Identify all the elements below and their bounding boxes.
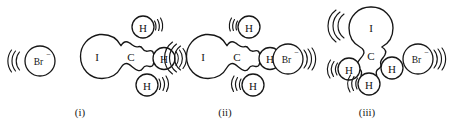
hydrogen-bottom-label-iii: H [365,79,373,91]
motion-arcs-hydrogen-bottom-i [159,76,168,92]
bromide-charge-ii: − [294,48,299,57]
motion-arcs-hydrogen-top-i [155,18,163,31]
motion-arcs-hydrogen-right-i [176,49,186,69]
iodomethane-blob-i: I C [81,35,160,79]
hydrogen-right-label-iii: H [388,63,396,75]
caption-i: (i) [75,106,86,119]
panel-ii: I C H H H [165,16,316,119]
carbon-label-ii: C [233,51,240,63]
hydrogen-bottom-ii: H [232,74,264,96]
bromide-charge-i: − [46,50,51,59]
hydrogen-left-iii: H [327,58,360,80]
hydrogen-top-label-i: H [139,22,147,34]
hydrogen-top-ii: H [229,16,260,38]
iodomethane-blob-ii: I C [187,35,266,79]
bromide-charge-iii: − [424,48,429,57]
iodine-label-i: I [95,51,99,63]
motion-arcs-bromide-ii [304,48,316,70]
motion-arcs-bromide-i [8,50,20,72]
carbon-label-i: C [127,51,134,63]
bromide-label-i: Br [34,57,44,67]
iodine-label-ii: I [201,51,205,63]
bromide-label-ii: Br [282,55,292,65]
hydrogen-right-iii: H [381,57,403,79]
hydrogen-bottom-label-ii: H [249,80,257,92]
motion-arcs-hydrogen-top-ii [229,18,237,31]
bromide-label-iii: Br [412,55,422,65]
caption-ii: (ii) [218,106,232,119]
hydrogen-top-label-ii: H [245,22,253,34]
i-c-merged-outline-i [81,35,160,79]
motion-arcs-bromide-iii [434,48,446,70]
figure-canvas: Br − I C H H [0,0,449,129]
hydrogen-bottom-i: H [136,74,168,96]
panel-iii: I C H H H [327,7,445,119]
hydrogen-bottom-label-i: H [143,80,151,92]
motion-arcs-hydrogen-left-iii [327,60,337,78]
bromide-ion-i: Br − [8,46,55,76]
motion-arcs-hydrogen-bottom-ii [232,76,241,92]
iodine-label-iii: I [369,22,373,34]
bromide-ion-iii: Br − [403,44,446,74]
motion-arcs-iodine-iii [328,10,344,42]
hydrogen-top-i: H [132,16,163,38]
hydrogen-left-label-iii: H [345,64,353,76]
bromide-ion-ii: Br − [273,44,316,74]
caption-iii: (iii) [359,106,376,119]
panel-i: Br − I C H H [8,16,187,119]
i-c-merged-outline-ii [187,35,266,79]
carbon-label-iii: C [367,50,374,62]
